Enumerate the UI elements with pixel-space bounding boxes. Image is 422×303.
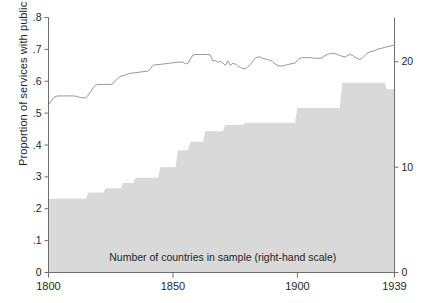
chart-plot-area: 0.1.2.3.4.5.6.7.8010201800185019001939Nu… (0, 0, 422, 303)
y-tick-label: 0 (36, 266, 42, 278)
y-tick-label: .7 (33, 43, 42, 55)
y2-tick-label: 10 (402, 161, 414, 173)
y-tick-label: .8 (33, 11, 42, 23)
x-tick-label: 1850 (161, 280, 185, 292)
chart-figure: Proportion of services with public monop… (0, 0, 422, 303)
y-tick-label: .2 (33, 202, 42, 214)
y-tick-label: .4 (33, 139, 42, 151)
x-tick-label: 1900 (285, 280, 309, 292)
x-tick-label: 1800 (36, 280, 60, 292)
y-tick-label: .6 (33, 75, 42, 87)
y-tick-label: .1 (33, 234, 42, 246)
y2-tick-label: 20 (402, 55, 414, 67)
y-tick-label: .5 (33, 107, 42, 119)
x-tick-label: 1939 (382, 280, 406, 292)
y-tick-label: .3 (33, 170, 42, 182)
countries-area-series (49, 83, 395, 273)
y2-tick-label: 0 (402, 266, 408, 278)
chart-annotation: Number of countries in sample (right-han… (109, 251, 336, 263)
